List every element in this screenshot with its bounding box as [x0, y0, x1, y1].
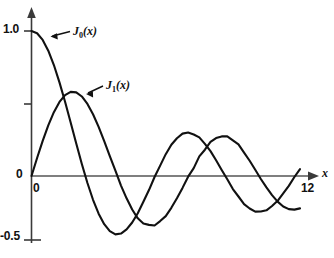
y-axis-ticks — [24, 31, 41, 240]
curve-j0 — [32, 31, 301, 234]
y-axis-tick-label-minus-0.5: -0.5 — [0, 229, 20, 243]
curve-j1 — [32, 92, 301, 226]
y-axis-tick-label-1.0: 1.0 — [3, 22, 19, 36]
plot-canvas — [0, 0, 334, 258]
x-axis-tick-label-0: 0 — [33, 181, 39, 195]
x-axis-tick-label-12: 12 — [301, 181, 314, 195]
y-axis-tick-label-0: 0 — [16, 167, 22, 181]
curve-label-j0: J0(x) — [73, 24, 97, 40]
curve-label-j1: J1(x) — [106, 78, 130, 94]
j0-leader-arrow — [51, 33, 58, 39]
x-axis — [32, 172, 320, 181]
y-axis — [27, 7, 36, 243]
x-axis-title: x — [322, 166, 328, 181]
curve-label-j0-arg: (x) — [83, 24, 97, 38]
curve-label-j1-arg: (x) — [116, 78, 130, 92]
bessel-function-chart: 1.0 0 -0.5 0 12 x J0(x) J1(x) — [0, 0, 334, 258]
j1-leader-line — [88, 86, 103, 93]
